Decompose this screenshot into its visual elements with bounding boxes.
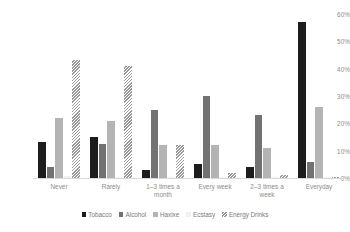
x-axis-category-label: Rarely <box>85 181 137 207</box>
bar-group <box>33 14 85 178</box>
legend-label: Haxixe <box>160 211 179 218</box>
legend-item[interactable]: Energy Drinks <box>222 211 268 218</box>
bar[interactable] <box>211 145 219 178</box>
bar[interactable] <box>298 22 306 178</box>
legend-label: Ecstasy <box>193 211 215 218</box>
legend-item[interactable]: Alcohol <box>119 211 146 218</box>
bar[interactable] <box>168 177 176 178</box>
bar[interactable] <box>228 173 236 178</box>
bar[interactable] <box>107 121 115 178</box>
chart-legend: TobaccoAlcoholHaxixeEcstasyEnergy Drinks <box>0 211 350 218</box>
bar[interactable] <box>220 177 228 178</box>
bar[interactable] <box>315 107 323 178</box>
bar[interactable] <box>38 142 46 178</box>
bar[interactable] <box>280 175 288 178</box>
bar[interactable] <box>272 177 280 178</box>
bar[interactable] <box>116 177 124 178</box>
legend-swatch-icon <box>222 212 227 217</box>
bar[interactable] <box>255 115 263 178</box>
legend-swatch-icon <box>186 212 191 217</box>
bar[interactable] <box>55 118 63 178</box>
bar-group <box>241 14 293 178</box>
bar[interactable] <box>203 96 211 178</box>
x-axis-labels: NeverRarely1–3 times a monthEvery week2–… <box>33 181 345 207</box>
legend-label: Alcohol <box>126 211 147 218</box>
bar[interactable] <box>90 137 98 178</box>
bar[interactable] <box>263 148 271 178</box>
bar[interactable] <box>142 170 150 178</box>
x-axis-category-label: Never <box>33 181 85 207</box>
bar[interactable] <box>332 177 340 178</box>
bar-group <box>293 14 345 178</box>
bar[interactable] <box>159 145 167 178</box>
x-axis-category-label: 2–3 times a week <box>241 181 293 207</box>
bar[interactable] <box>246 167 254 178</box>
legend-label: Tobacco <box>88 211 111 218</box>
legend-item[interactable]: Ecstasy <box>186 211 215 218</box>
bar[interactable] <box>176 145 184 178</box>
bar-groups <box>33 14 345 178</box>
bar[interactable] <box>324 177 332 178</box>
legend-item[interactable]: Tobacco <box>82 211 112 218</box>
x-axis-category-label: 1–3 times a month <box>137 181 189 207</box>
x-axis-category-label: Every week <box>189 181 241 207</box>
bar[interactable] <box>194 164 202 178</box>
bar[interactable] <box>307 162 315 178</box>
bar[interactable] <box>47 167 55 178</box>
bar-group <box>85 14 137 178</box>
bar-chart: 60%50%40%30%20%10%0% NeverRarely1–3 time… <box>0 0 350 232</box>
x-axis-category-label: Everyday <box>293 181 345 207</box>
x-axis-line <box>33 178 345 179</box>
legend-item[interactable]: Haxixe <box>153 211 179 218</box>
legend-swatch-icon <box>82 212 87 217</box>
legend-label: Energy Drinks <box>229 211 269 218</box>
legend-swatch-icon <box>119 212 124 217</box>
bar[interactable] <box>72 60 80 178</box>
bar-group <box>189 14 241 178</box>
legend-swatch-icon <box>153 212 158 217</box>
bar[interactable] <box>64 176 72 178</box>
bar[interactable] <box>124 66 132 178</box>
bar-group <box>137 14 189 178</box>
bar[interactable] <box>151 110 159 178</box>
bar[interactable] <box>99 144 107 178</box>
